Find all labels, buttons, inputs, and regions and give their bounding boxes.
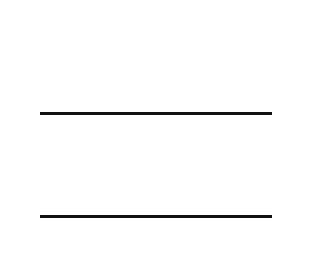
sum-divider-line	[40, 215, 272, 218]
multiplication-divider-line	[40, 112, 272, 115]
